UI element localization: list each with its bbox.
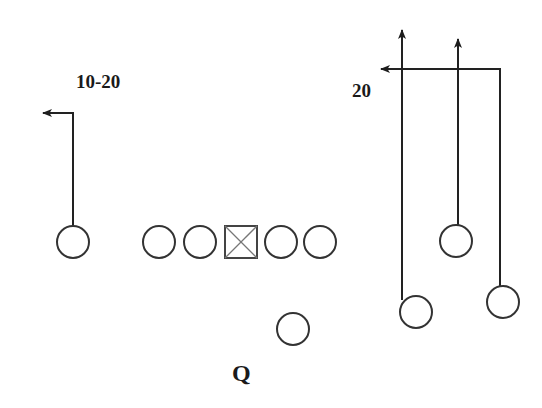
label-10-20: 10-20 xyxy=(76,71,120,92)
play-diagram: 10-20 Q 20 xyxy=(0,0,542,408)
player-right-tackle xyxy=(304,226,336,258)
player-inside-receiver xyxy=(400,296,432,328)
player-left-guard xyxy=(184,226,216,258)
player-right-guard xyxy=(265,226,297,258)
player-slot-receiver xyxy=(440,225,472,257)
player-quarterback xyxy=(277,313,309,345)
player-left-tackle xyxy=(143,226,175,258)
player-left-receiver xyxy=(57,226,89,258)
route-outside-receiver xyxy=(381,69,500,286)
label-q: Q xyxy=(232,360,251,386)
player-center xyxy=(225,226,257,258)
label-20: 20 xyxy=(352,80,371,101)
route-left-receiver xyxy=(43,113,73,226)
player-outside-receiver xyxy=(487,286,519,318)
